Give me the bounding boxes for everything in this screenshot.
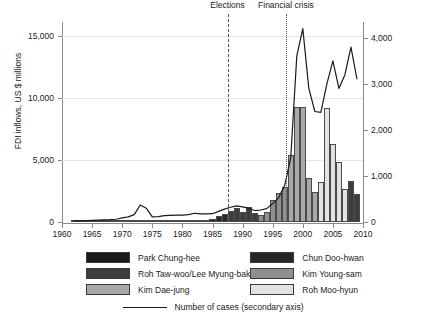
legend-swatch-icon [86, 268, 130, 279]
y2-axis-tick [364, 130, 368, 131]
x-axis-tick [303, 224, 304, 228]
y-axis-tick-label: 0 [0, 218, 54, 227]
legend-item-label: Roh Taw-woo/Lee Myung-bak [138, 269, 250, 279]
legend-item: Chun Doo-hwan [250, 252, 368, 263]
legend-swatch-grid: Park Chung-heeChun Doo-hwanRoh Taw-woo/L… [0, 252, 426, 295]
number-of-cases-line-series [62, 24, 363, 222]
legend-item: Park Chung-hee [86, 252, 250, 263]
legend-item: Roh Moo-hyun [250, 284, 368, 295]
y2-axis-tick-label: 2,000 [371, 126, 392, 135]
x-axis-tick-label: 1975 [143, 230, 162, 239]
y-axis-tick-label: 10,000 [0, 94, 54, 103]
y-axis-tick-label: 15,000 [0, 32, 54, 41]
y2-axis-tick-label: 0 [371, 218, 376, 227]
legend-swatch-icon [86, 252, 130, 263]
x-axis-tick [273, 224, 274, 228]
x-axis-tick [363, 224, 364, 228]
x-axis-tick-label: 2005 [323, 230, 342, 239]
legend-line-entry: Number of cases (secondary axis) [0, 302, 426, 312]
fdi-inflows-chart: FDI inflows, US $ millions 05,00010,0001… [0, 0, 426, 324]
legend-swatch-icon [250, 268, 294, 279]
legend-item-label: Chun Doo-hwan [302, 253, 363, 263]
x-axis-tick-label: 1980 [173, 230, 192, 239]
legend-swatch-icon [250, 284, 294, 295]
x-axis-tick [122, 224, 123, 228]
x-axis-tick [152, 224, 153, 228]
number-of-cases-line [74, 29, 357, 221]
x-axis-tick-label: 2000 [293, 230, 312, 239]
legend-swatch-icon [86, 284, 130, 295]
x-axis-tick-label: 1970 [113, 230, 132, 239]
legend-item-label: Park Chung-hee [138, 253, 200, 263]
x-axis-tick [333, 224, 334, 228]
x-axis-tick-label: 1990 [233, 230, 252, 239]
y2-axis-tick [364, 38, 368, 39]
legend-item: Roh Taw-woo/Lee Myung-bak [86, 268, 250, 279]
legend-item-label: Kim Dae-jung [138, 285, 190, 295]
legend-item: Kim Young-sam [250, 268, 368, 279]
x-axis-tick [213, 224, 214, 228]
chart-legend: Park Chung-heeChun Doo-hwanRoh Taw-woo/L… [0, 252, 426, 312]
legend-line-label: Number of cases (secondary axis) [175, 302, 304, 312]
y2-axis-tick [364, 222, 368, 223]
line-swatch-icon [123, 307, 167, 308]
y2-axis-tick [364, 176, 368, 177]
x-axis-tick-label: 1960 [53, 230, 72, 239]
legend-item-label: Roh Moo-hyun [302, 285, 358, 295]
x-axis-tick [243, 224, 244, 228]
legend-item-label: Kim Young-sam [302, 269, 362, 279]
event-marker-line-elections [228, 14, 229, 222]
legend-item: Kim Dae-jung [86, 284, 250, 295]
event-marker-line-financial_crisis [286, 14, 287, 222]
x-axis-tick [92, 224, 93, 228]
y-axis-tick [58, 222, 62, 223]
y-axis-tick-label: 5,000 [0, 156, 54, 165]
x-axis-tick [182, 224, 183, 228]
x-axis-tick-label: 1965 [83, 230, 102, 239]
legend-swatch-icon [250, 252, 294, 263]
plot-area: ElectionsFinancial crisis [62, 24, 363, 222]
x-axis-tick-label: 1995 [263, 230, 282, 239]
y2-axis-tick-label: 1,000 [371, 172, 392, 181]
y2-axis-tick [364, 84, 368, 85]
y-axis-right-line [363, 22, 364, 224]
y2-axis-tick-label: 4,000 [371, 34, 392, 43]
x-axis-tick-label: 2010 [354, 230, 373, 239]
event-marker-label-elections: Elections [210, 0, 245, 10]
y2-axis-tick-label: 3,000 [371, 80, 392, 89]
x-axis-tick [62, 224, 63, 228]
x-axis-tick-label: 1985 [203, 230, 222, 239]
event-marker-label-financial_crisis: Financial crisis [258, 0, 314, 10]
